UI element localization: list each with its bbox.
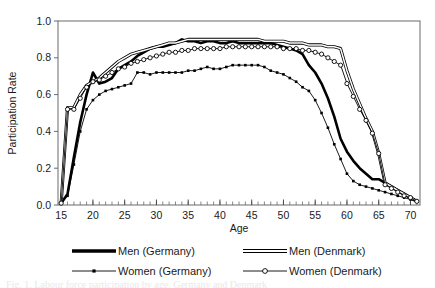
data-marker	[364, 118, 368, 122]
data-marker	[269, 45, 273, 49]
x-tick-label: 60	[341, 209, 353, 221]
data-marker	[186, 48, 190, 52]
y-tick-label: 0.2	[36, 162, 51, 174]
data-marker	[370, 131, 374, 135]
data-marker	[148, 56, 152, 60]
participation-rate-line-chart: 0.00.20.40.60.81.0 152025303540455055606…	[0, 0, 435, 288]
legend-marker	[92, 269, 95, 272]
data-marker	[123, 65, 127, 69]
data-marker	[384, 191, 387, 194]
data-marker	[307, 48, 311, 52]
data-marker	[256, 45, 260, 49]
data-marker	[396, 190, 400, 194]
data-marker	[135, 59, 139, 63]
series-women-germany	[60, 64, 418, 205]
data-marker	[346, 172, 349, 175]
data-marker	[332, 59, 336, 63]
data-marker	[257, 64, 260, 67]
data-marker	[116, 67, 120, 71]
data-marker	[263, 66, 266, 69]
data-marker	[301, 86, 304, 89]
x-tick-label: 25	[119, 209, 131, 221]
data-marker	[224, 45, 228, 49]
x-axis-title: Age	[230, 222, 249, 234]
data-marker	[104, 74, 108, 78]
data-marker	[129, 61, 133, 65]
data-marker	[97, 78, 101, 82]
data-marker	[149, 73, 152, 76]
data-marker	[110, 70, 114, 74]
data-marker	[294, 47, 298, 51]
legend-item-women-germany[interactable]: Women (Germany)	[72, 265, 211, 277]
data-marker	[199, 47, 203, 51]
x-tick-label: 65	[373, 209, 385, 221]
data-marker	[402, 194, 406, 198]
legend-label: Men (Denmark)	[289, 245, 365, 257]
data-marker	[78, 96, 82, 100]
figure-container: 0.00.20.40.60.81.0 152025303540455055606…	[0, 0, 435, 288]
data-marker	[180, 48, 184, 52]
series-line	[61, 65, 417, 203]
data-marker	[79, 130, 82, 133]
data-marker	[187, 69, 190, 72]
data-marker	[142, 58, 146, 62]
data-marker	[65, 107, 69, 111]
data-marker	[225, 66, 228, 69]
data-marker	[155, 71, 158, 74]
data-marker	[231, 45, 235, 49]
legend-item-women-denmark[interactable]: Women (Denmark)	[243, 265, 382, 277]
y-tick-label: 1.0	[36, 15, 51, 27]
data-marker	[98, 93, 101, 96]
data-marker	[352, 180, 355, 183]
data-marker	[154, 54, 158, 58]
x-tick-label: 70	[405, 209, 417, 221]
data-marker	[282, 73, 285, 76]
data-marker	[123, 84, 126, 87]
data-marker	[358, 183, 361, 186]
data-marker	[181, 71, 184, 74]
legend-item-men-germany[interactable]: Men (Germany)	[72, 245, 195, 257]
data-marker	[288, 47, 292, 51]
data-marker	[59, 201, 63, 205]
data-marker	[161, 52, 165, 56]
data-marker	[73, 163, 76, 166]
data-marker	[206, 66, 209, 69]
data-marker	[167, 50, 171, 54]
data-marker	[262, 45, 266, 49]
data-marker	[218, 47, 222, 51]
x-tick-label: 50	[278, 209, 290, 221]
legend-label: Women (Denmark)	[289, 265, 382, 277]
data-marker	[238, 64, 241, 67]
data-marker	[313, 50, 317, 54]
series-women-denmark	[59, 45, 419, 206]
data-marker	[161, 71, 164, 74]
data-marker	[390, 193, 393, 196]
y-tick-label: 0.4	[36, 125, 51, 137]
x-axis-ticks	[61, 200, 410, 206]
y-tick-label: 0.8	[36, 51, 51, 63]
data-marker	[351, 94, 355, 98]
data-marker	[193, 69, 196, 72]
data-marker	[237, 45, 241, 49]
data-marker	[219, 68, 222, 71]
data-marker	[231, 64, 234, 67]
data-marker	[212, 47, 216, 51]
data-marker	[295, 80, 298, 83]
y-axis-tick-labels: 0.00.20.40.60.81.0	[36, 15, 51, 211]
data-marker	[371, 187, 374, 190]
y-tick-label: 0.6	[36, 88, 51, 100]
x-tick-label: 15	[55, 209, 67, 221]
legend-item-men-denmark[interactable]: Men (Denmark)	[243, 245, 365, 257]
data-marker	[104, 90, 107, 93]
data-marker	[92, 99, 95, 102]
data-marker	[276, 71, 279, 74]
data-marker	[205, 47, 209, 51]
data-marker	[130, 82, 133, 85]
data-marker	[173, 50, 177, 54]
data-marker	[377, 151, 381, 155]
x-tick-label: 30	[151, 209, 163, 221]
data-marker	[415, 199, 419, 203]
data-marker	[200, 68, 203, 71]
y-axis-ticks	[54, 21, 58, 205]
data-marker	[84, 85, 88, 89]
